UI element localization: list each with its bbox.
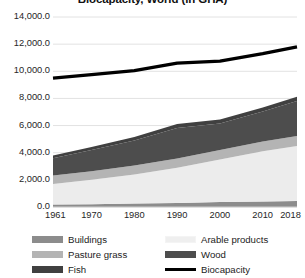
x-tick-label: 2010 <box>252 210 273 220</box>
x-axis: 1961197019801990200020102018 <box>0 208 305 226</box>
legend-swatch-fish-icon <box>32 266 63 273</box>
x-tick-label: 2018 <box>280 210 301 220</box>
line-series-biocapacity <box>53 47 297 78</box>
x-tick-label: 2000 <box>210 210 231 220</box>
y-tick-label: 4,000.0 <box>2 148 50 157</box>
legend-swatch-pasture-grass-icon <box>32 251 63 258</box>
legend-label: Buildings <box>68 234 107 245</box>
y-tick-label: 10,000.0 <box>2 66 50 75</box>
legend-item[interactable]: Fish <box>32 263 86 276</box>
legend-label: Biocapacity <box>201 264 250 275</box>
legend-item[interactable]: Wood <box>165 248 226 261</box>
legend-label: Arable products <box>201 234 268 245</box>
legend-swatch-buildings-icon <box>32 236 63 243</box>
legend-item[interactable]: Arable products <box>165 233 268 246</box>
legend-item[interactable]: Biocapacity <box>165 263 250 276</box>
x-tick-label: 1961 <box>45 210 66 220</box>
legend-label: Pasture grass <box>68 249 127 260</box>
x-tick-label: 1990 <box>167 210 188 220</box>
y-tick-label: 2,000.0 <box>2 175 50 184</box>
legend-swatch-arable-products-icon <box>165 236 196 243</box>
legend-swatch-wood-icon <box>165 251 196 258</box>
legend-swatch-biocapacity-icon <box>165 268 196 271</box>
y-tick-label: 14,000.0 <box>2 12 50 21</box>
y-tick-label: 12,000.0 <box>2 39 50 48</box>
x-tick-label: 1980 <box>124 210 145 220</box>
legend-label: Fish <box>68 264 86 275</box>
legend-label: Wood <box>201 249 226 260</box>
legend-item[interactable]: Pasture grass <box>32 248 127 261</box>
x-tick-label: 1970 <box>81 210 102 220</box>
y-tick-label: 6,000.0 <box>2 121 50 130</box>
biocapacity-area-chart: Biocapacity, World (in GHA) 14,000.012,0… <box>0 0 305 278</box>
y-axis: 14,000.012,000.010,000.08,000.06,000.04,… <box>0 0 50 210</box>
legend-item[interactable]: Buildings <box>32 233 107 246</box>
y-tick-label: 8,000.0 <box>2 93 50 102</box>
chart-legend: BuildingsPasture grassFishArable product… <box>0 231 305 278</box>
